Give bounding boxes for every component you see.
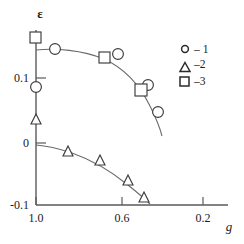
triangle-marker <box>139 192 149 202</box>
square-marker <box>30 32 41 43</box>
x-tick-label-0.6: 0.6 <box>115 211 130 225</box>
circle-marker <box>153 107 164 118</box>
legend-triangle-icon <box>180 63 190 72</box>
series-3-markers <box>30 32 147 96</box>
series-2-markers <box>31 114 149 202</box>
data-curves <box>36 49 162 204</box>
x-axis-title: g <box>226 219 233 234</box>
legend-label-2: –2 <box>193 58 206 70</box>
legend: – 1 –2 –3 <box>180 43 209 87</box>
y-tick-label-0: 0 <box>23 136 29 150</box>
legend-label-3: –3 <box>193 75 206 87</box>
axes-group <box>36 30 228 205</box>
y-tick-label--0.1: -0.1 <box>10 198 29 212</box>
y-tick-label-0.1: 0.1 <box>14 71 29 85</box>
triangle-marker <box>123 175 133 185</box>
y-axis-title: ε <box>37 6 43 21</box>
legend-square-icon <box>180 77 189 86</box>
chart-svg: 0.1 0 -0.1 1.0 0.6 0.2 ε g – 1 –2 –3 <box>0 0 244 244</box>
x-tick-label-1.0: 1.0 <box>29 211 44 225</box>
lower-curve <box>36 145 150 204</box>
circle-marker <box>50 44 61 55</box>
triangle-marker <box>31 114 41 124</box>
circle-marker <box>113 49 124 60</box>
triangle-marker <box>95 155 105 165</box>
square-marker <box>135 84 147 96</box>
circle-marker <box>31 82 42 93</box>
legend-circle-icon <box>182 46 189 53</box>
square-marker <box>99 52 110 63</box>
legend-label-1: – 1 <box>193 43 209 55</box>
x-tick-label-0.2: 0.2 <box>196 211 211 225</box>
x-tick-marks <box>36 197 203 205</box>
series-1-markers <box>31 44 164 118</box>
plot-figure: 0.1 0 -0.1 1.0 0.6 0.2 ε g – 1 –2 –3 <box>0 0 244 244</box>
